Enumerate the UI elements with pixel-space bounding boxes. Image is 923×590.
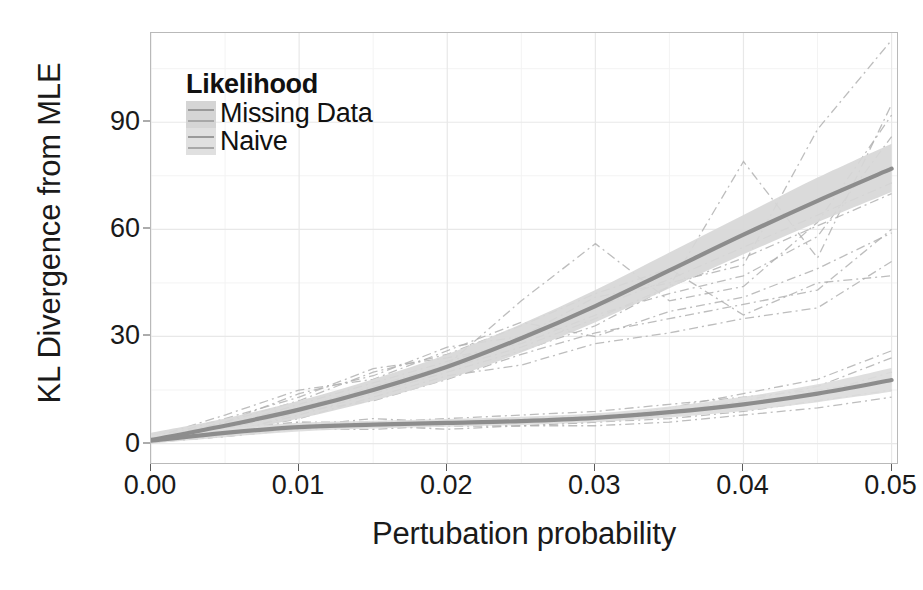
x-axis-title: Pertubation probability — [150, 516, 898, 552]
legend-key-line-naive — [188, 136, 214, 138]
y-tick-label: 60 — [80, 213, 140, 244]
x-tick-label: 0.03 — [534, 470, 654, 501]
y-axis-title: KL Divergence from MLE — [32, 3, 68, 463]
y-tick-mark — [143, 121, 150, 122]
legend-key-line2-naive — [188, 147, 214, 149]
legend-keys — [186, 101, 216, 155]
x-tick-label: 0.01 — [238, 470, 358, 501]
legend-key-missing-data — [186, 101, 216, 128]
y-tick-mark — [143, 335, 150, 336]
legend: Likelihood Missing Data Naive — [186, 70, 486, 155]
x-tick-label: 0.02 — [386, 470, 506, 501]
legend-key-line2-missing-data — [188, 120, 214, 122]
legend-key-naive — [186, 128, 216, 155]
legend-labels: Missing Data Naive — [220, 99, 372, 155]
x-tick-mark — [891, 464, 892, 471]
x-tick-label: 0.00 — [90, 470, 210, 501]
y-tick-mark — [143, 228, 150, 229]
legend-label-naive: Naive — [220, 127, 372, 155]
x-tick-mark — [298, 464, 299, 471]
x-tick-mark — [742, 464, 743, 471]
y-axis-tick-labels: 0306090 — [78, 0, 140, 590]
x-tick-mark — [150, 464, 151, 471]
x-tick-mark — [594, 464, 595, 471]
y-tick-mark — [143, 442, 150, 443]
chart-figure: KL Divergence from MLE 0306090 Likelihoo… — [0, 0, 923, 590]
x-tick-mark — [446, 464, 447, 471]
x-tick-label: 0.05 — [831, 470, 923, 501]
legend-title: Likelihood — [186, 70, 486, 98]
legend-key-line-missing-data — [188, 109, 214, 111]
legend-label-missing-data: Missing Data — [220, 99, 372, 127]
y-tick-label: 0 — [80, 427, 140, 458]
y-tick-label: 30 — [80, 320, 140, 351]
x-tick-label: 0.04 — [682, 470, 802, 501]
y-tick-label: 90 — [80, 106, 140, 137]
